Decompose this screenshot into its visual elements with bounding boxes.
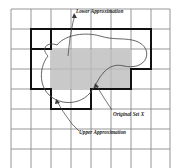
label-lower-approximation: Lower Approximation: [76, 9, 123, 14]
label-upper-approximation: Upper Approximation: [79, 130, 126, 135]
rough-set-diagram: Lower Approximation Original Set X Upper…: [0, 0, 178, 168]
diagram-canvas: [0, 0, 178, 168]
label-original-set: Original Set X: [113, 112, 144, 117]
